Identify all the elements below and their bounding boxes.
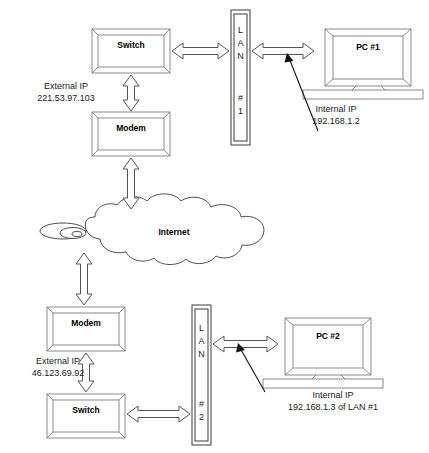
switch-top-node[interactable]: Switch	[92, 29, 170, 73]
link-internet-modem-bottom[interactable]	[76, 253, 92, 305]
pc2-label: PC #2	[316, 331, 340, 341]
lan1-char-a: A	[237, 38, 243, 48]
diagram-canvas: Switch Modem L A N # 1	[0, 0, 429, 453]
lan1-char-hash: #	[238, 93, 243, 103]
switch-top-label: Switch	[117, 40, 144, 50]
lan2-bar[interactable]: L A N # 2	[192, 305, 211, 445]
lan2-char-a: A	[198, 336, 204, 346]
external-ip-bottom-line2: 46.123.69.92	[6, 367, 110, 379]
link-switch-lan1[interactable]	[172, 43, 229, 59]
external-ip-top-line1: External IP	[18, 80, 114, 92]
double-arrow-lan2-pc2	[213, 336, 278, 352]
external-ip-annotation-bottom: External IP 46.123.69.92	[6, 355, 110, 379]
lan1-char-one: 1	[238, 106, 243, 116]
modem-bottom-label: Modem	[71, 318, 101, 328]
double-arrow-lan1-pc1	[252, 43, 314, 59]
double-arrow-modem-internet-top	[123, 158, 139, 209]
modem-top-label: Modem	[116, 123, 146, 133]
internal-ip-pointer-bottom	[236, 343, 265, 392]
pc1-base-bar	[303, 90, 423, 99]
double-arrow-vertical-top	[123, 75, 139, 111]
lan2-char-hash: #	[199, 399, 204, 409]
internal-ip-annotation-top: Internal IP 192.168.1.2	[288, 103, 384, 127]
switch-bottom-label: Switch	[72, 405, 99, 415]
switch-bottom-node[interactable]: Switch	[47, 394, 125, 438]
pc1-label: PC #1	[356, 42, 380, 52]
double-arrow-internet-modem-bottom	[76, 253, 92, 305]
link-switch-modem-top[interactable]	[123, 75, 139, 111]
internal-ip-top-line2: 192.168.1.2	[288, 115, 384, 127]
internal-ip-pointer-line-bottom	[240, 348, 265, 392]
modem-top-node[interactable]: Modem	[92, 112, 170, 156]
pc2-node[interactable]: PC #2	[263, 318, 383, 388]
lan2-char-two: 2	[199, 412, 204, 422]
double-arrow-switch-lan1	[172, 43, 229, 59]
pc2-base-bar	[263, 379, 383, 388]
lan2-char-l: L	[199, 323, 204, 333]
internet-cloud-node[interactable]: Internet	[40, 194, 264, 265]
link-lan1-pc1[interactable]	[252, 43, 314, 59]
link-modem-top-internet[interactable]	[123, 158, 139, 209]
internal-ip-top-line1: Internal IP	[288, 103, 384, 115]
modem-bottom-node[interactable]: Modem	[47, 307, 125, 351]
lan2-char-n: N	[198, 349, 205, 359]
double-arrow-switch-lan2	[127, 406, 190, 422]
external-ip-bottom-line1: External IP	[6, 355, 110, 367]
lan1-char-l: L	[238, 25, 243, 35]
external-ip-top-line2: 221.53.97.103	[18, 92, 114, 104]
lan1-bar[interactable]: L A N # 1	[231, 10, 250, 145]
internet-label: Internet	[158, 227, 189, 237]
network-diagram: Switch Modem L A N # 1	[0, 0, 429, 453]
internal-ip-bottom-line2: 192.168.1.3 of LAN #1	[253, 401, 413, 413]
internal-ip-annotation-bottom: Internal IP 192.168.1.3 of LAN #1	[253, 389, 413, 413]
lan1-char-n: N	[237, 51, 244, 61]
internal-ip-bottom-line1: Internal IP	[253, 389, 413, 401]
link-switch-lan2[interactable]	[127, 406, 190, 422]
cloud-tail-ellipse-dot	[72, 232, 82, 237]
external-ip-annotation-top: External IP 221.53.97.103	[18, 80, 114, 104]
link-lan2-pc2[interactable]	[213, 336, 278, 352]
pc1-node[interactable]: PC #1	[303, 29, 423, 99]
